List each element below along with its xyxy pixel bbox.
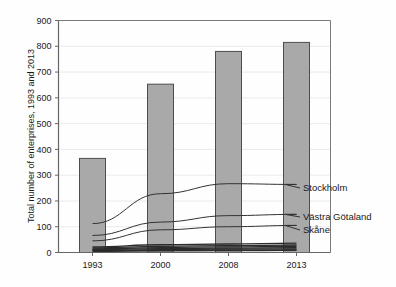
x-tick-label: 2013 [286,260,306,270]
y-tick-label: 800 [36,41,51,51]
x-tick-label: 1993 [82,260,102,270]
chart-figure: 0100200300400500600700800900 19932000200… [0,0,396,287]
y-tick-label: 700 [36,67,51,77]
series-label-vastra-gotaland: Västra Götaland [303,211,372,222]
y-tick-label: 900 [36,16,51,26]
bar [148,84,174,252]
y-tick-label: 0 [46,248,51,258]
y-axis-title: Total number of enterprises, 1993 and 20… [26,49,36,223]
bar [80,158,106,252]
x-tick-label: 2000 [150,260,170,270]
series-label-skane: Skåne [303,224,330,235]
y-tick-label: 600 [36,93,51,103]
series-label-stockholm: Stockholm [303,182,347,193]
bar [216,51,242,252]
y-tick-label: 100 [36,222,51,232]
y-tick-label: 500 [36,119,51,129]
y-tick-label: 400 [36,145,51,155]
y-tick-label: 300 [36,170,51,180]
y-tick-label: 200 [36,196,51,206]
bar-line-combo-chart: 0100200300400500600700800900 19932000200… [0,0,396,287]
x-tick-label: 2008 [218,260,238,270]
